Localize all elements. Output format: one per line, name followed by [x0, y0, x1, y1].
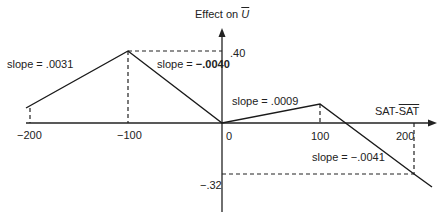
- y-axis-label: Effect on U: [195, 8, 249, 20]
- x-tick-minus-200: −200: [17, 129, 42, 141]
- y-tick-040: .40: [230, 47, 245, 59]
- y-tick-minus-032: −.32: [200, 179, 222, 191]
- y-axis-arrow-icon: [219, 28, 226, 37]
- slope-annotation-2: slope = −.0040: [157, 58, 230, 70]
- y-axis-label-overlined: U: [241, 8, 249, 20]
- y-axis-label-text: Effect on: [195, 8, 241, 20]
- slope-annotation-3: slope = .0009: [232, 95, 298, 107]
- x-tick-minus-100: −100: [117, 129, 142, 141]
- x-axis-label-text: SAT-: [375, 105, 399, 117]
- x-axis-label-overlined: SAT: [399, 105, 420, 117]
- x-tick-200: 200: [396, 130, 414, 142]
- x-tick-0: 0: [226, 130, 232, 142]
- slope-annotation-4: slope = −.0041: [312, 151, 385, 163]
- x-axis-label: SAT-SAT: [375, 105, 419, 117]
- effect-line: [26, 51, 432, 187]
- x-tick-100: 100: [311, 130, 329, 142]
- slope-2-value: −.0040: [196, 58, 230, 70]
- slope-2-prefix: slope =: [157, 58, 196, 70]
- x-axis-arrow-icon: [428, 120, 437, 127]
- slope-annotation-1: slope = .0031: [7, 58, 73, 70]
